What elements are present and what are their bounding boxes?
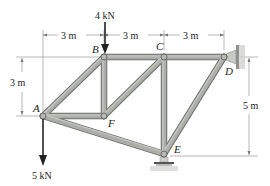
joint-a (40, 113, 46, 119)
dim-label-bc: 3 m (123, 30, 139, 41)
dim-label-left: 3 m (10, 77, 26, 88)
dimension-arrowheads (21, 34, 251, 156)
dim-label-ab: 3 m (61, 30, 77, 41)
joint-d (221, 54, 227, 60)
truss-diagram: 4 kN 5 kN 3 m 3 m 3 m 3 m 5 m A B C D E … (0, 0, 270, 186)
joint-c (161, 54, 167, 60)
dimension-lines (16, 30, 258, 156)
node-label-e: E (173, 143, 181, 155)
dim-label-cd: 3 m (183, 30, 199, 41)
joint-f (101, 113, 107, 119)
load-label-b: 4 kN (95, 10, 115, 21)
joint-e (161, 151, 167, 157)
node-label-d: D (224, 65, 233, 77)
arrowhead-b-icon (101, 44, 109, 54)
arrowhead-a-icon (39, 155, 47, 166)
node-label-a: A (32, 102, 40, 114)
truss-members (42, 56, 224, 154)
node-label-c: C (156, 40, 164, 52)
joint-b (101, 54, 107, 60)
dim-label-right: 5 m (243, 100, 259, 111)
node-label-f: F (107, 117, 115, 129)
node-label-b: B (92, 43, 99, 55)
load-label-a: 5 kN (32, 170, 52, 181)
pin-support-e (150, 157, 178, 171)
